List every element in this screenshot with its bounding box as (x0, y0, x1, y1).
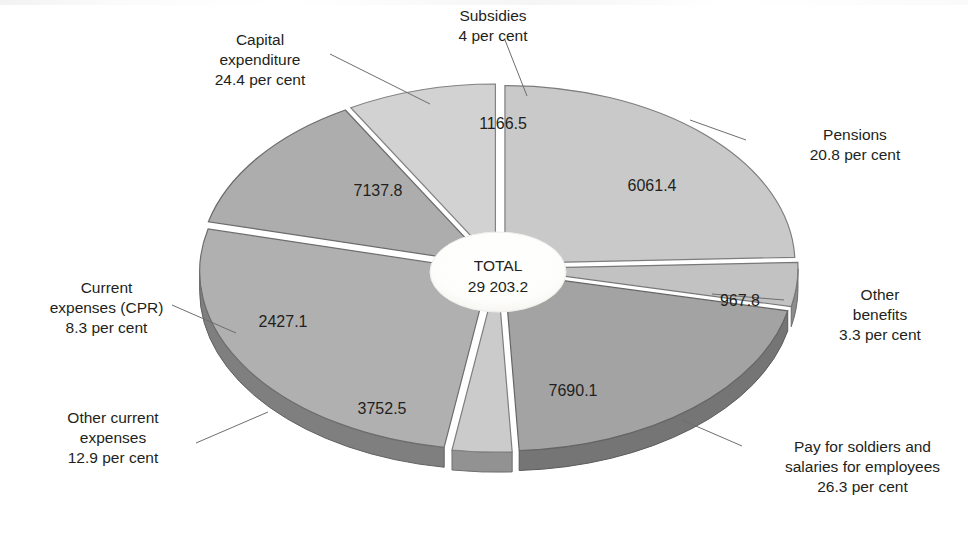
value-subsidies: 1166.5 (479, 115, 527, 132)
callout-current-cpr-line3: 8.3 per cent (24, 318, 189, 338)
callout-current-cpr-line2: expenses (CPR) (24, 298, 189, 318)
callout-other-benefits: Other benefits 3.3 per cent (800, 285, 960, 344)
value-pay-soldiers: 7690.1 (549, 382, 598, 399)
callout-pay-soldiers-line2: salaries for employees (760, 457, 965, 477)
callout-subsidies: Subsidies 4 per cent (408, 6, 578, 46)
value-capital-expenditure: 7137.8 (354, 182, 403, 199)
callout-capital-expenditure-line2: expenditure (160, 50, 360, 70)
callout-other-current-line2: expenses (28, 428, 198, 448)
center-total-title: TOTAL (474, 257, 523, 274)
callout-subsidies-line2: 4 per cent (408, 26, 578, 46)
value-other-current: 3752.5 (358, 400, 407, 417)
callout-pensions-line2: 20.8 per cent (760, 145, 950, 165)
center-hub: TOTAL 29 203.2 (430, 232, 566, 312)
callout-other-current-line1: Other current (28, 408, 198, 428)
callout-pay-soldiers-line1: Pay for soldiers and (760, 437, 965, 457)
callout-other-current: Other current expenses 12.9 per cent (28, 408, 198, 467)
slice-top-capital-expenditure[interactable] (505, 86, 795, 264)
center-total-value: 29 203.2 (468, 278, 528, 295)
callout-capital-expenditure-line3: 24.4 per cent (160, 70, 360, 90)
callout-other-benefits-line3: 3.3 per cent (800, 325, 960, 345)
callout-pensions: Pensions 20.8 per cent (760, 125, 950, 165)
callout-other-benefits-line1: Other (800, 285, 960, 305)
callout-pensions-line1: Pensions (760, 125, 950, 145)
value-pensions: 6061.4 (628, 177, 677, 194)
callout-capital-expenditure: Capital expenditure 24.4 per cent (160, 30, 360, 89)
leader-pay-soldiers (682, 420, 742, 446)
callout-capital-expenditure-line1: Capital (160, 30, 360, 50)
chart-canvas: TOTAL 29 203.2 7137.8 1166.5 6061.4 967.… (0, 0, 968, 534)
callout-other-current-line3: 12.9 per cent (28, 448, 198, 468)
callout-subsidies-line1: Subsidies (408, 6, 578, 26)
callout-pay-soldiers-line3: 26.3 per cent (760, 477, 965, 497)
value-current-cpr: 2427.1 (259, 313, 308, 330)
callout-current-cpr-line1: Current (24, 278, 189, 298)
slice-side-other-benefits (452, 450, 512, 472)
callout-other-benefits-line2: benefits (800, 305, 960, 325)
leader-other-current (196, 412, 268, 443)
callout-pay-soldiers: Pay for soldiers and salaries for employ… (760, 437, 965, 496)
value-other-benefits: 967.8 (720, 292, 760, 309)
callout-current-cpr: Current expenses (CPR) 8.3 per cent (24, 278, 189, 337)
